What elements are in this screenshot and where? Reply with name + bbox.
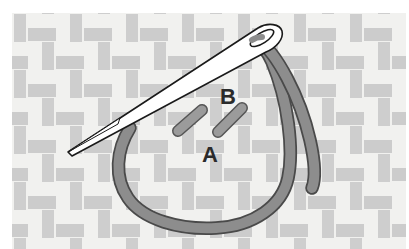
stitch-illustration: A B — [0, 0, 409, 249]
fabric-soft-overlay — [12, 13, 406, 249]
thread-through-eye — [252, 37, 262, 40]
illustration-canvas: A B — [0, 0, 409, 249]
fabric-swatch — [12, 13, 406, 249]
label-b: B — [220, 84, 236, 109]
label-a: A — [202, 142, 218, 167]
